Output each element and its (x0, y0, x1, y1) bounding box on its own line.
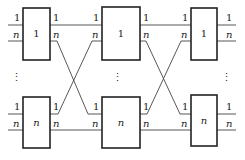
port-label: 1 (182, 12, 188, 23)
port-label: 1 (93, 12, 99, 23)
box-label: 1 (201, 28, 207, 39)
port-label: n (92, 29, 98, 40)
port-label: n (53, 118, 59, 129)
port-label: 1 (143, 12, 149, 23)
port-label: n (181, 29, 187, 40)
port-label: n (143, 29, 149, 40)
box-label: 1 (33, 28, 39, 39)
port-label: 1 (53, 12, 59, 23)
port-label: 1 (226, 101, 232, 112)
port-label: 1 (182, 101, 188, 112)
port-label: n (92, 118, 98, 129)
box-s3-top: 1 (191, 8, 217, 60)
box-label: n (118, 117, 124, 128)
port-label: n (53, 29, 59, 40)
ellipsis-stage-2: ⋮ (112, 71, 123, 84)
box-label: 1 (118, 28, 124, 39)
box-s1-bottom: n (23, 97, 50, 148)
box-s1-top: 1 (23, 8, 50, 60)
port-label: 1 (14, 101, 20, 112)
box-label: n (201, 115, 207, 126)
ellipsis-stage-3: ⋮ (221, 71, 232, 84)
box-s3-bottom: n (191, 95, 217, 146)
port-label: 1 (14, 12, 20, 23)
port-label: 1 (93, 101, 99, 112)
port-label: n (226, 118, 232, 129)
box-s2-bottom: n (102, 97, 140, 148)
port-label: n (181, 118, 187, 129)
port-label: 1 (226, 12, 232, 23)
box-label: n (33, 117, 39, 128)
port-label: n (13, 118, 19, 129)
network-diagram: 1 n 1 n 1 n 1 n 1 n 1 n 1 n 1 n 1 n 1 n … (0, 0, 245, 160)
port-label: n (143, 118, 149, 129)
port-label: 1 (53, 101, 59, 112)
port-label: 1 (143, 101, 149, 112)
port-label: n (226, 29, 232, 40)
box-s2-top: 1 (102, 7, 140, 60)
ellipsis-stage-1: ⋮ (11, 71, 22, 84)
port-label: n (13, 29, 19, 40)
